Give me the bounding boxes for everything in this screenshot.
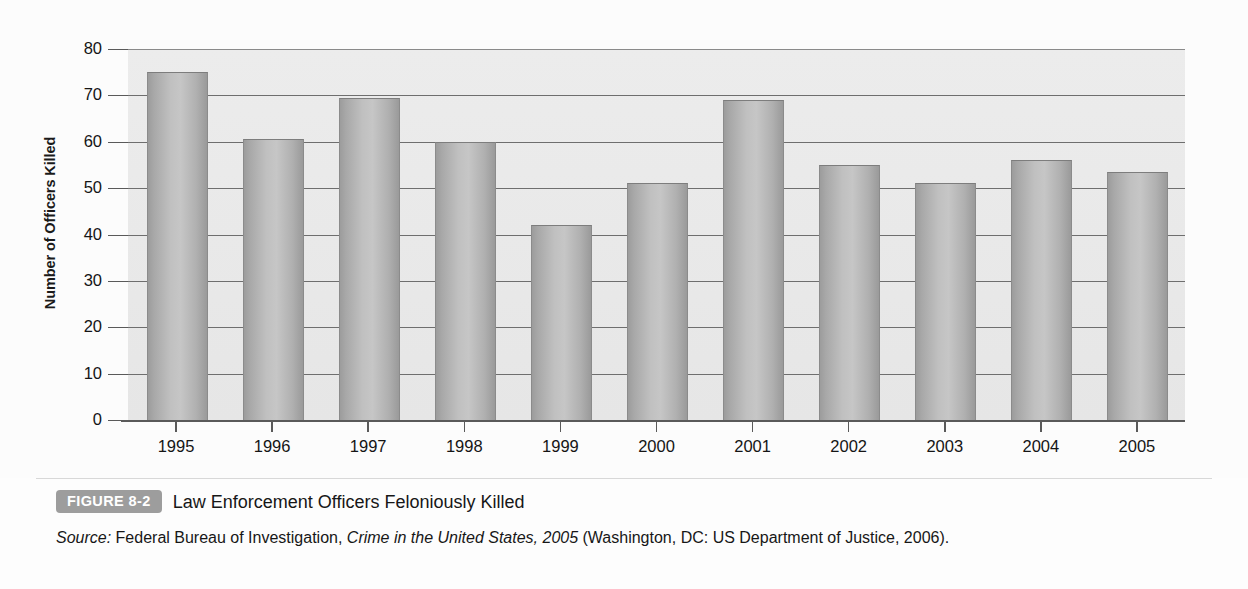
x-tick-label-1995: 1995 [128,437,224,456]
y-tick-0 [108,420,128,421]
y-tick-10 [108,374,128,375]
y-tick-80 [108,49,128,50]
x-tick-1995 [175,421,177,432]
x-tick-label-2003: 2003 [897,437,993,456]
y-tick-label-30: 30 [58,271,102,290]
x-tick-label-1998: 1998 [416,437,512,456]
gridline-80 [128,49,1185,50]
x-tick-2004 [1040,421,1042,432]
bar-2000 [627,183,688,421]
x-tick-1999 [560,421,562,432]
y-tick-label-10: 10 [58,364,102,383]
bar-1997 [339,98,400,421]
bar-1995 [147,72,208,421]
y-axis-title: Number of Officers Killed [42,73,58,373]
bar-1999 [531,225,592,421]
bar-1998 [435,142,496,421]
y-tick-label-80: 80 [58,39,102,58]
bar-2003 [915,183,976,421]
x-tick-2002 [848,421,850,432]
x-tick-label-1999: 1999 [512,437,608,456]
x-tick-2005 [1136,421,1138,432]
x-tick-2003 [944,421,946,432]
x-tick-1997 [367,421,369,432]
y-tick-70 [108,95,128,96]
x-tick-label-1996: 1996 [224,437,320,456]
y-tick-label-40: 40 [58,225,102,244]
y-tick-label-0: 0 [58,410,102,429]
y-tick-label-50: 50 [58,178,102,197]
x-tick-1998 [464,421,466,432]
gridline-70 [128,95,1185,96]
x-tick-label-2002: 2002 [801,437,897,456]
bar-1996 [243,139,304,421]
caption-divider [36,478,1212,479]
y-tick-20 [108,327,128,328]
figure-caption: FIGURE 8-2 Law Enforcement Officers Felo… [56,489,1216,547]
source-publication: Crime in the United States, 2005 [347,529,578,546]
y-tick-label-60: 60 [58,132,102,151]
y-tick-40 [108,235,128,236]
x-tick-label-2005: 2005 [1089,437,1185,456]
y-tick-label-70: 70 [58,85,102,104]
plot-area [128,49,1185,420]
figure-source-line: Source: Federal Bureau of Investigation,… [56,528,1216,547]
chart-area: Number of Officers Killed 01020304050607… [0,0,1248,478]
x-tick-label-2004: 2004 [993,437,1089,456]
x-tick-2000 [656,421,658,432]
x-tick-2001 [752,421,754,432]
x-axis-line [121,420,1185,422]
x-tick-label-2001: 2001 [705,437,801,456]
source-agency: Federal Bureau of Investigation, [111,529,347,546]
x-tick-1996 [271,421,273,432]
y-tick-50 [108,188,128,189]
bar-2002 [819,165,880,421]
figure-title: Law Enforcement Officers Feloniously Kil… [173,493,525,511]
bar-2001 [723,100,784,421]
source-suffix: (Washington, DC: US Department of Justic… [578,529,949,546]
y-tick-60 [108,142,128,143]
figure-page: Number of Officers Killed 01020304050607… [0,0,1248,589]
bar-2004 [1011,160,1072,421]
y-tick-30 [108,281,128,282]
caption-title-row: FIGURE 8-2 Law Enforcement Officers Felo… [56,489,1216,514]
source-label: Source: [56,529,111,546]
bar-2005 [1107,172,1168,421]
y-tick-label-20: 20 [58,317,102,336]
x-tick-label-2000: 2000 [608,437,704,456]
figure-number-badge: FIGURE 8-2 [56,490,162,514]
x-tick-label-1997: 1997 [320,437,416,456]
